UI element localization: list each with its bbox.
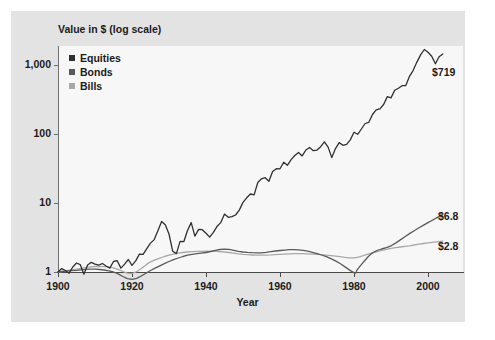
x-tick-label: 1900 [46,280,69,292]
x-tick [58,273,59,277]
end-label-bills: $2.8 [438,240,458,252]
y-tick-label: 100 [0,128,51,138]
y-tick [54,134,59,135]
legend-item-equities[interactable]: Equities [69,52,121,64]
legend-item-bills[interactable]: Bills [69,80,121,92]
legend-label: Bonds [80,66,113,78]
x-tick-label: 1940 [194,280,217,292]
x-tick [428,273,429,277]
y-tick-label-wrap: 1 [0,266,51,276]
x-tick [132,273,133,277]
y-tick-label: 1 [0,266,51,276]
legend-swatch-icon [69,55,75,61]
y-axis-line [58,46,59,273]
y-tick-label: 1,000 [0,59,51,69]
x-tick-label: 1980 [342,280,365,292]
y-tick [54,65,59,66]
x-tick-label: 1960 [268,280,291,292]
y-tick [54,203,59,204]
end-label-equities: $719 [432,66,455,78]
x-tick-label: 2000 [416,280,439,292]
x-tick-label: 1920 [120,280,143,292]
legend-swatch-icon [69,69,75,75]
x-axis-title: Year [0,296,495,308]
legend-label: Equities [80,52,121,64]
x-tick [280,273,281,277]
y-tick-label: 10 [0,197,51,207]
end-label-bonds: $6.8 [438,210,458,222]
y-tick-label-wrap: 10 [0,197,51,207]
legend-swatch-icon [69,83,75,89]
y-tick-label-wrap: 100 [0,128,51,138]
chart-figure: Value in $ (log scale) 1,000100101 19001… [0,0,495,340]
x-axis-line [58,272,464,273]
y-axis-title: Value in $ (log scale) [58,23,161,35]
x-tick [206,273,207,277]
x-tick [354,273,355,277]
chart-legend: EquitiesBondsBills [69,52,121,94]
legend-label: Bills [80,80,102,92]
y-tick-label-wrap: 1,000 [0,59,51,69]
legend-item-bonds[interactable]: Bonds [69,66,121,78]
